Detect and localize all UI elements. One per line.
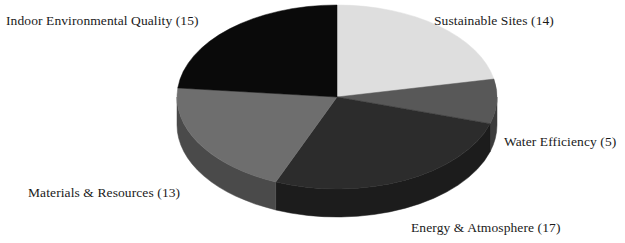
pie-top-faces [177,5,497,189]
pie-label-water-efficiency: Water Efficiency (5) [504,134,616,150]
pie-slice-indoor-environmental-quality[interactable] [178,5,337,97]
pie-label-energy-atmosphere: Energy & Atmosphere (17) [411,220,561,236]
pie-chart-svg [0,0,625,243]
pie-chart-figure: Indoor Environmental Quality (15) Sustai… [0,0,625,243]
pie-label-indoor-environmental-quality: Indoor Environmental Quality (15) [6,13,199,29]
pie-label-materials-resources: Materials & Resources (13) [28,185,180,201]
pie-label-sustainable-sites: Sustainable Sites (14) [434,13,554,29]
